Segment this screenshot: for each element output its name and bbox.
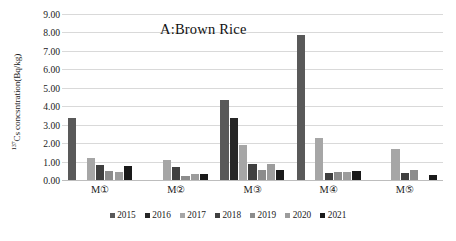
x-axis-tick-label: M⑤ (396, 183, 414, 195)
legend-item[interactable]: 2018 (215, 210, 241, 220)
bar-slot (154, 14, 162, 180)
bar[interactable] (325, 173, 333, 180)
bar-groups (62, 14, 443, 180)
bar-slot (401, 14, 409, 180)
y-axis-tick-label: 6.00 (43, 64, 60, 75)
legend-label: 2019 (258, 210, 277, 220)
legend-label: 2018 (222, 210, 241, 220)
bar-slot (382, 14, 390, 180)
bar-slot (144, 14, 152, 180)
legend-swatch-icon (250, 213, 255, 218)
bar[interactable] (96, 165, 104, 180)
bar-slot (77, 14, 85, 180)
bar[interactable] (220, 100, 228, 180)
y-axis-title-superscript: 137 (10, 142, 17, 151)
y-axis-tick-label: 2.00 (43, 138, 60, 149)
bar[interactable] (105, 171, 113, 180)
bar[interactable] (410, 170, 418, 180)
y-axis-tick-label: 3.00 (43, 119, 60, 130)
plot-area (62, 14, 443, 180)
legend-swatch-icon (110, 213, 115, 218)
bar[interactable] (297, 35, 305, 180)
bar-slot (343, 14, 351, 180)
bar-slot (419, 14, 427, 180)
bar[interactable] (315, 138, 323, 180)
legend-item[interactable]: 2017 (180, 210, 206, 220)
chart-legend: 2015201620172018201920202021 (0, 210, 456, 220)
bar-slot (181, 14, 189, 180)
bar-slot (297, 14, 305, 180)
legend-swatch-icon (285, 213, 290, 218)
bar-slot (191, 14, 199, 180)
y-axis-tick-label: 0.00 (43, 175, 60, 186)
bar-slot (334, 14, 342, 180)
bar[interactable] (163, 160, 171, 180)
legend-item[interactable]: 2016 (145, 210, 171, 220)
bar[interactable] (391, 149, 399, 180)
bar-slot (115, 14, 123, 180)
bar[interactable] (230, 118, 238, 180)
bar-slot (373, 14, 381, 180)
legend-swatch-icon (215, 213, 220, 218)
x-axis-tick-label: M③ (243, 183, 261, 195)
legend-item[interactable]: 2019 (250, 210, 276, 220)
bar[interactable] (267, 164, 275, 180)
bar-slot (391, 14, 399, 180)
bar[interactable] (276, 170, 284, 181)
bar-slot (105, 14, 113, 180)
y-axis-tick-label: 9.00 (43, 9, 60, 20)
legend-swatch-icon (180, 213, 185, 218)
gridline (62, 180, 443, 181)
bar-slot (163, 14, 171, 180)
legend-swatch-icon (145, 213, 150, 218)
bar[interactable] (115, 172, 123, 180)
bar[interactable] (258, 170, 266, 180)
bar[interactable] (181, 176, 189, 180)
bar-chart: 137Cs concsntration(Bq/kg) 0.001.002.003… (0, 0, 456, 241)
bar-slot (352, 14, 360, 180)
legend-label: 2017 (187, 210, 206, 220)
bar-slot (258, 14, 266, 180)
legend-label: 2015 (117, 210, 136, 220)
legend-item[interactable]: 2020 (285, 210, 311, 220)
bar[interactable] (343, 172, 351, 180)
bar[interactable] (200, 174, 208, 180)
bar[interactable] (68, 118, 76, 180)
bar[interactable] (248, 164, 256, 180)
x-axis-tick-label: M④ (320, 183, 338, 195)
bar-slot (248, 14, 256, 180)
bar[interactable] (239, 145, 247, 180)
x-axis-tick-label: M② (167, 183, 185, 195)
legend-item[interactable]: 2015 (110, 210, 136, 220)
bar-slot (306, 14, 314, 180)
bar-group (367, 14, 443, 180)
bar-slot (325, 14, 333, 180)
bar[interactable] (429, 175, 437, 180)
y-axis-tick-label: 1.00 (43, 156, 60, 167)
bar-slot (87, 14, 95, 180)
bar-slot (410, 14, 418, 180)
bar[interactable] (401, 173, 409, 180)
x-axis-labels: M①M②M③M④M⑤ (62, 183, 443, 201)
bar-slot (276, 14, 284, 180)
bar-group (138, 14, 214, 180)
bar[interactable] (191, 174, 199, 180)
bar-slot (124, 14, 132, 180)
y-axis-ticks: 0.001.002.003.004.005.006.007.008.009.00 (20, 14, 60, 180)
bar[interactable] (87, 158, 95, 180)
bar-slot (172, 14, 180, 180)
bar[interactable] (172, 167, 180, 180)
bar[interactable] (334, 172, 342, 180)
legend-item[interactable]: 2021 (320, 210, 346, 220)
bar-slot (239, 14, 247, 180)
bar[interactable] (352, 171, 360, 180)
bar[interactable] (124, 166, 132, 180)
bar-slot (200, 14, 208, 180)
bar-slot (267, 14, 275, 180)
bar-slot (230, 14, 238, 180)
x-axis-tick-label: M① (91, 183, 109, 195)
legend-label: 2016 (152, 210, 171, 220)
y-axis-tick-label: 4.00 (43, 101, 60, 112)
bar-group (291, 14, 367, 180)
bar-slot (220, 14, 228, 180)
